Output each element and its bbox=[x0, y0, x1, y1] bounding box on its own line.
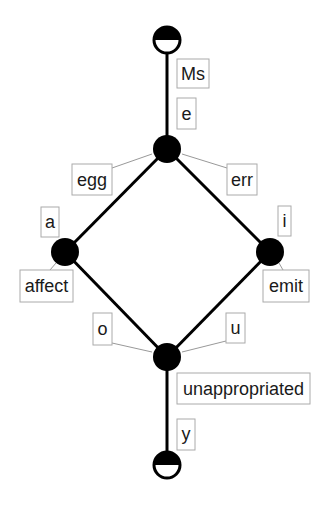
label-ms: Ms bbox=[177, 59, 209, 88]
leader-affect bbox=[50, 263, 56, 270]
label-o: o bbox=[93, 313, 112, 345]
svg-text:Ms: Ms bbox=[181, 64, 205, 84]
node-a-affect[interactable] bbox=[51, 238, 79, 266]
concept-lattice-diagram: Ms e egg err a affect i emit bbox=[0, 0, 332, 509]
leader-o bbox=[112, 343, 152, 352]
node-o-u-unappropriated[interactable] bbox=[153, 343, 181, 371]
svg-text:a: a bbox=[45, 212, 56, 232]
svg-text:egg: egg bbox=[77, 170, 107, 190]
edge-n2-n4 bbox=[65, 252, 167, 357]
label-e: e bbox=[177, 98, 196, 129]
label-a: a bbox=[41, 207, 59, 237]
svg-text:y: y bbox=[182, 424, 191, 444]
svg-text:o: o bbox=[97, 319, 107, 339]
svg-text:i: i bbox=[283, 211, 287, 231]
label-affect: affect bbox=[20, 270, 73, 302]
top-node-icon[interactable] bbox=[154, 27, 180, 53]
label-emit: emit bbox=[263, 270, 309, 302]
node-e-egg-err[interactable] bbox=[153, 135, 181, 163]
svg-text:emit: emit bbox=[269, 276, 303, 296]
label-y: y bbox=[177, 419, 195, 450]
node-i-emit[interactable] bbox=[256, 238, 284, 266]
edge-n3-n4 bbox=[167, 252, 270, 357]
svg-text:affect: affect bbox=[25, 276, 69, 296]
label-u: u bbox=[226, 313, 245, 343]
svg-text:u: u bbox=[230, 318, 240, 338]
label-egg: egg bbox=[72, 164, 112, 195]
label-i: i bbox=[278, 206, 291, 236]
label-unappropriated: unappropriated bbox=[177, 373, 310, 404]
leader-err bbox=[182, 154, 227, 168]
label-err: err bbox=[227, 164, 257, 195]
leader-emit bbox=[279, 263, 283, 270]
svg-text:e: e bbox=[181, 104, 191, 124]
leader-egg bbox=[112, 154, 152, 168]
bottom-node-icon[interactable] bbox=[154, 452, 180, 478]
svg-text:unappropriated: unappropriated bbox=[183, 379, 304, 399]
leader-u bbox=[182, 341, 226, 352]
svg-text:err: err bbox=[231, 170, 253, 190]
